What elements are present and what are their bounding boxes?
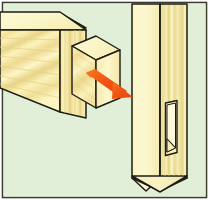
- part-post: [132, 4, 187, 192]
- part-mortise: [166, 101, 178, 156]
- mortise-tenon-figure: Mortise and tenon joint assembly: [0, 0, 209, 200]
- joint-illustration-canvas: Mortise and tenon joint assembly: [0, 0, 209, 200]
- post-left-face: [132, 4, 160, 191]
